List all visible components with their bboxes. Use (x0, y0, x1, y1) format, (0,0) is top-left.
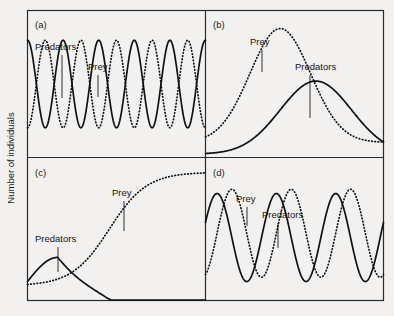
panel-b-prey-label: Prey (250, 36, 270, 47)
panel-d-predators-label: Predators (262, 209, 303, 220)
panel-a-prey-label: Prey (88, 61, 108, 72)
panel-b-predators-curve (206, 81, 384, 153)
panel-c-predators-curve (28, 257, 206, 300)
panel-b-predators-label: Predators (295, 61, 336, 72)
panel-d: (d) Prey Predators (206, 167, 384, 282)
panel-d-letter: (d) (213, 167, 225, 178)
panel-d-prey-label: Prey (236, 193, 256, 204)
predator-prey-figure: Number of individuals (a) Predators Prey… (0, 0, 394, 316)
panel-b-letter: (b) (213, 19, 225, 30)
panel-b-prey-curve (206, 29, 384, 143)
panel-b: (b) Prey Predators (206, 19, 384, 153)
panel-c: (c) Prey Predators (28, 167, 206, 300)
y-axis-label: Number of individuals (5, 112, 16, 204)
panel-c-letter: (c) (35, 167, 46, 178)
panel-a-prey-curve (28, 40, 206, 128)
panel-a: (a) Predators Prey (28, 19, 206, 128)
panel-a-predators-label: Predators (35, 41, 76, 52)
panel-d-predators-curve (206, 194, 384, 282)
panel-c-predators-label: Predators (35, 233, 76, 244)
panel-a-letter: (a) (35, 19, 47, 30)
panel-c-prey-label: Prey (112, 187, 132, 198)
